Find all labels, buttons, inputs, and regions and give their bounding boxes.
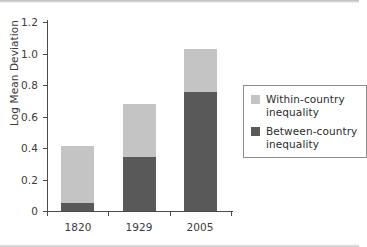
y-axis-tick: 0.8: [43, 85, 47, 86]
legend-label-within-line2: inequality: [266, 106, 319, 118]
legend-label-between: Between-country inequality: [266, 125, 357, 150]
x-axis-tick: [231, 211, 232, 216]
bar-segment-between-2005: [184, 92, 217, 211]
chart-legend: Within-country inequality Between-countr…: [243, 85, 367, 158]
bar-1820: [61, 146, 94, 211]
y-axis-tick: 0.2: [43, 180, 47, 181]
bar-segment-within-2005: [184, 49, 217, 92]
x-axis-tick-label: 1929: [125, 221, 152, 233]
legend-label-within: Within-country inequality: [266, 93, 345, 118]
y-axis-tick-label: 0.6: [21, 111, 38, 123]
legend-label-between-line2: inequality: [266, 138, 319, 150]
bar-segment-between-1820: [61, 203, 94, 211]
bar-2005: [184, 49, 217, 211]
y-axis-tick-label: 0: [31, 205, 38, 217]
x-axis-tick: [170, 211, 171, 216]
y-axis-tick-label: 1.0: [21, 48, 38, 60]
legend-label-within-line1: Within-country: [266, 93, 345, 105]
legend-swatch-within-icon: [251, 95, 260, 104]
bar-segment-within-1929: [123, 104, 156, 158]
y-axis-tick-label: 1.2: [21, 16, 38, 28]
bar-segment-between-1929: [123, 157, 156, 211]
legend-swatch-between-icon: [251, 127, 260, 136]
y-axis-tick: 0.6: [43, 117, 47, 118]
y-axis-tick: 1.2: [43, 22, 47, 23]
scan-edge-top: [0, 0, 359, 3]
y-axis-label: Log Mean Deviation: [8, 20, 20, 126]
plot-area: 00.20.40.60.81.01.2182019292005: [47, 22, 231, 211]
legend-item-between[interactable]: Between-country inequality: [251, 125, 360, 150]
y-axis-tick-label: 0.8: [21, 79, 38, 91]
x-axis-line: [47, 211, 233, 212]
bar-segment-within-1820: [61, 146, 94, 203]
y-axis-tick-label: 0.4: [21, 142, 38, 154]
x-axis-tick-label: 2005: [186, 221, 213, 233]
x-axis-tick: [47, 211, 48, 216]
x-axis-tick: [108, 211, 109, 216]
y-axis-tick-label: 0.2: [21, 174, 38, 186]
x-axis-tick-label: 1820: [64, 221, 91, 233]
legend-item-within[interactable]: Within-country inequality: [251, 93, 360, 118]
y-axis-tick: 0.4: [43, 148, 47, 149]
y-axis-tick: 1.0: [43, 54, 47, 55]
bar-1929: [123, 104, 156, 211]
legend-label-between-line1: Between-country: [266, 125, 357, 137]
